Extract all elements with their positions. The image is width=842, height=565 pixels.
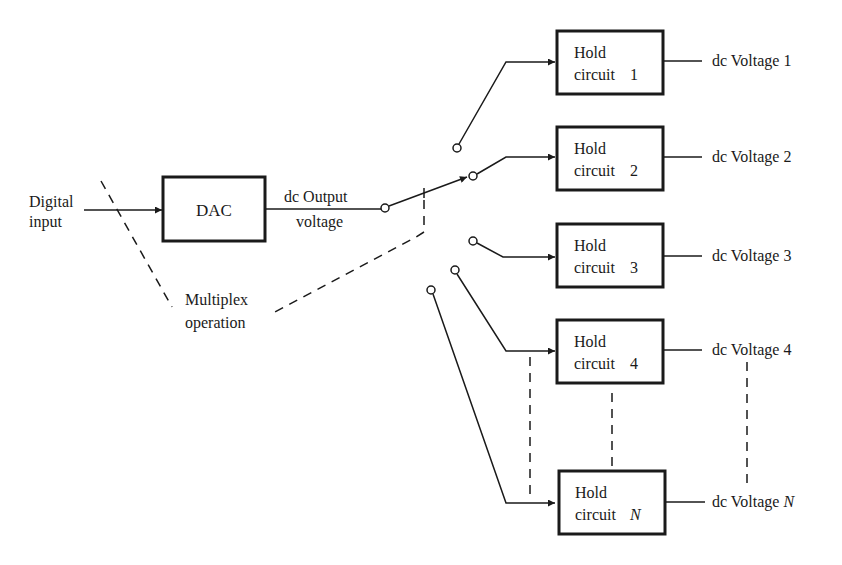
dc-voltage-2-label: dc Voltage 2 [712, 148, 791, 166]
channel-n-wire [433, 294, 555, 503]
multiplexed-dac-diagram: Digital input DAC dc Output voltage Mult… [0, 0, 842, 565]
svg-text:circuit: circuit [575, 506, 616, 523]
svg-text:Hold: Hold [574, 140, 606, 157]
channel-2-wire [477, 157, 555, 174]
switch-terminal-4 [451, 266, 459, 274]
svg-text:N: N [629, 506, 642, 523]
multiplex-operation-label: Multiplex operation [185, 291, 248, 332]
svg-text:circuit: circuit [574, 259, 615, 276]
dc-voltage-4-label: dc Voltage 4 [712, 341, 791, 359]
digital-input-label: Digital input [29, 193, 74, 231]
hold-circuit-4: Hold circuit 4 [557, 320, 663, 383]
dac-block: DAC [163, 177, 265, 241]
svg-text:3: 3 [630, 259, 638, 276]
svg-text:Multiplex: Multiplex [185, 291, 248, 309]
switch-common-terminal [381, 204, 389, 212]
svg-text:dc Output: dc Output [284, 188, 348, 206]
svg-text:voltage: voltage [296, 213, 343, 231]
hold-circuit-1: Hold circuit 1 [557, 31, 663, 94]
channel-4-wire [457, 274, 555, 351]
dc-voltage-3-label: dc Voltage 3 [712, 247, 791, 265]
switch-terminal-n [427, 286, 435, 294]
svg-text:1: 1 [630, 66, 638, 83]
switch-terminal-1 [453, 144, 461, 152]
svg-text:Hold: Hold [574, 333, 606, 350]
multiplex-dashed-line-left [101, 181, 172, 307]
svg-text:Digital: Digital [29, 193, 74, 211]
hold-circuit-3: Hold circuit 3 [557, 224, 663, 287]
svg-text:circuit: circuit [574, 355, 615, 372]
channel-3-wire [477, 243, 555, 257]
svg-text:DAC: DAC [196, 201, 232, 220]
svg-text:Hold: Hold [574, 237, 606, 254]
dc-voltage-n-label: dc Voltage N [712, 493, 795, 511]
switch-terminal-3 [469, 237, 477, 245]
svg-text:circuit: circuit [574, 66, 615, 83]
svg-text:circuit: circuit [574, 162, 615, 179]
dc-voltage-1-label: dc Voltage 1 [712, 52, 791, 70]
hold-circuit-n: Hold circuit N [559, 471, 665, 534]
switch-wiper [389, 177, 467, 206]
svg-text:operation: operation [185, 314, 245, 332]
channel-1-wire [459, 62, 555, 144]
svg-text:Hold: Hold [575, 484, 607, 501]
switch-terminal-2 [469, 172, 477, 180]
svg-text:input: input [29, 213, 62, 231]
svg-text:Hold: Hold [574, 44, 606, 61]
svg-text:2: 2 [630, 162, 638, 179]
svg-text:4: 4 [630, 355, 638, 372]
hold-circuit-2: Hold circuit 2 [557, 127, 663, 190]
